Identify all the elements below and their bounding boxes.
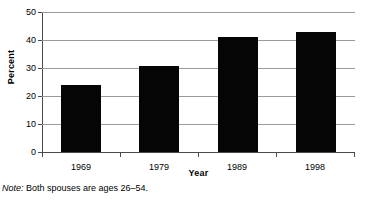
footnote-label: Note: xyxy=(2,183,24,193)
bar-1969 xyxy=(61,85,101,152)
plot-area: 50 40 30 20 10 0 1969 1979 1989 1998 xyxy=(42,12,355,152)
y-tick-mark-30 xyxy=(38,68,42,69)
y-tick-label-40: 40 xyxy=(26,36,36,45)
x-tick-mark-3 xyxy=(276,153,277,157)
y-tick-label-10: 10 xyxy=(26,120,36,129)
bar-1998 xyxy=(296,32,336,152)
y-axis-line xyxy=(42,12,43,153)
bar-chart-figure: Percent 50 40 30 20 10 0 xyxy=(0,0,369,200)
y-axis-title: Percent xyxy=(6,37,16,97)
y-tick-label-20: 20 xyxy=(26,92,36,101)
y-tick-mark-40 xyxy=(38,40,42,41)
x-tick-mark-1 xyxy=(120,153,121,157)
bar-1979 xyxy=(139,66,179,152)
y-tick-mark-20 xyxy=(38,96,42,97)
y-tick-label-0: 0 xyxy=(31,148,36,157)
gridline-50 xyxy=(42,12,355,13)
x-axis-title: Year xyxy=(42,168,355,178)
y-tick-label-50: 50 xyxy=(26,8,36,17)
x-tick-mark-4 xyxy=(354,153,355,157)
footnote: Note: Both spouses are ages 26–54. xyxy=(2,183,148,194)
y-tick-mark-50 xyxy=(38,12,42,13)
footnote-text: Both spouses are ages 26–54. xyxy=(24,183,149,193)
x-tick-mark-2 xyxy=(198,153,199,157)
y-tick-label-30: 30 xyxy=(26,64,36,73)
x-tick-mark-0 xyxy=(42,153,43,157)
bar-1989 xyxy=(218,37,258,152)
y-tick-mark-10 xyxy=(38,124,42,125)
